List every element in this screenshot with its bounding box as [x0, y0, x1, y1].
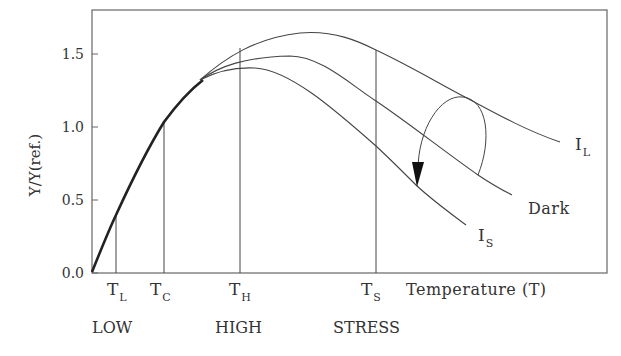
- ytick-label: 0.0: [62, 265, 84, 281]
- marker-lines: [116, 48, 376, 273]
- plot-frame: [92, 10, 607, 273]
- curve-dark: [200, 56, 512, 195]
- curved-arrow: [418, 97, 486, 175]
- chart: 0.0 0.5 1.0 1.5 Y/Y(ref.): [0, 0, 621, 356]
- y-ticks: [92, 54, 98, 273]
- x-axis-label: Temperature (T): [406, 280, 547, 299]
- series-label-is: IS: [478, 225, 493, 250]
- series-label-il: IL: [575, 134, 590, 159]
- marker-label-ts: TS: [361, 279, 381, 304]
- region-label-low: LOW: [92, 318, 132, 337]
- region-label-high: HIGH: [215, 318, 262, 337]
- curve-shared-rise: [92, 80, 203, 272]
- marker-label-tc: TC: [150, 279, 171, 304]
- region-label-stress: STRESS: [333, 318, 400, 337]
- series-label-dark: Dark: [528, 199, 570, 218]
- ytick-label: 1.0: [62, 119, 84, 135]
- marker-label-tl: TL: [107, 279, 127, 304]
- marker-label-th: TH: [229, 279, 251, 304]
- ytick-label: 0.5: [62, 192, 84, 208]
- ytick-label: 1.5: [62, 46, 84, 62]
- y-axis-label: Y/Y(ref.): [26, 134, 44, 197]
- curve-il: [200, 33, 560, 142]
